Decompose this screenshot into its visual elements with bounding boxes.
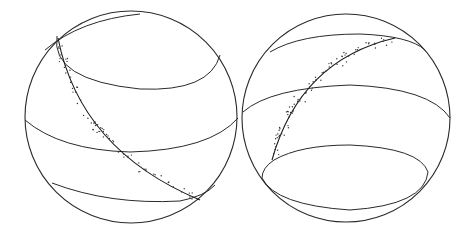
scatter-point (329, 66, 330, 67)
scatter-point (139, 171, 140, 172)
scatter-point (59, 58, 60, 59)
left-ring-upper (56, 36, 220, 89)
scatter-point (93, 122, 94, 123)
scatter-point (72, 88, 73, 89)
scatter-point (342, 65, 343, 66)
scatter-point (123, 153, 124, 154)
scatter-point (275, 138, 276, 139)
left-sphere (25, 11, 238, 223)
scatter-point (278, 130, 279, 131)
scatter-point (292, 106, 293, 107)
scatter-point (145, 169, 146, 170)
right-sphere (242, 14, 450, 222)
scatter-point (58, 48, 59, 49)
scatter-point (168, 181, 169, 182)
scatter-point (287, 125, 288, 126)
scatter-point (297, 101, 298, 102)
right-ring-upper (270, 34, 425, 52)
scatter-point (275, 146, 276, 147)
scatter-point (274, 143, 275, 144)
scatter-point (297, 99, 298, 100)
scatter-point (355, 49, 356, 50)
scatter-point (294, 104, 295, 105)
scatter-point (289, 106, 290, 107)
scatter-point (375, 47, 376, 48)
scatter-point (102, 128, 103, 129)
scatter-point (189, 196, 190, 197)
scatter-point (312, 87, 313, 88)
scatter-point (279, 135, 280, 136)
right-great-circle (272, 38, 395, 160)
scatter-point (87, 118, 88, 119)
scatter-point (288, 127, 289, 128)
scatter-point (192, 192, 193, 193)
scatter-point (331, 63, 332, 64)
scatter-point (386, 45, 387, 46)
scatter-point (348, 55, 349, 56)
left-ring-equator (25, 118, 238, 152)
scatter-point (184, 188, 185, 189)
left-scatter-points (58, 45, 193, 199)
scatter-point (97, 124, 98, 125)
scatter-point (290, 112, 291, 113)
scatter-point (277, 150, 278, 151)
scatter-point (315, 80, 316, 81)
scatter-point (103, 131, 104, 132)
scatter-point (354, 54, 355, 55)
scatter-point (383, 39, 384, 40)
scatter-point (374, 44, 375, 45)
scatter-point (274, 149, 275, 150)
scatter-point (127, 156, 128, 157)
scatter-point (358, 47, 359, 48)
scatter-point (92, 129, 93, 130)
scatter-point (278, 136, 279, 137)
scatter-point (60, 54, 61, 55)
scatter-point (305, 92, 306, 93)
scatter-point (368, 42, 369, 43)
scatter-point (70, 82, 71, 83)
scatter-point (293, 110, 294, 111)
scatter-point (311, 90, 312, 91)
scatter-point (103, 136, 104, 137)
scatter-point (189, 192, 190, 193)
scatter-point (288, 117, 289, 118)
scatter-point (336, 63, 337, 64)
scatter-point (107, 135, 108, 136)
spheres-diagram (0, 0, 471, 235)
scatter-point (65, 72, 66, 73)
scatter-point (391, 41, 392, 42)
scatter-point (77, 103, 78, 104)
scatter-point (161, 175, 162, 176)
scatter-point (345, 53, 346, 54)
scatter-point (113, 141, 114, 142)
scatter-point (336, 58, 337, 59)
scatter-point (131, 154, 132, 155)
right-scatter-points (273, 38, 393, 156)
scatter-point (96, 132, 97, 133)
scatter-point (357, 49, 358, 50)
scatter-point (61, 45, 62, 46)
scatter-point (80, 99, 81, 100)
scatter-point (279, 128, 280, 129)
scatter-point (75, 91, 76, 92)
scatter-point (65, 58, 66, 59)
scatter-point (312, 81, 313, 82)
scatter-point (64, 67, 65, 68)
scatter-point (325, 70, 326, 71)
scatter-point (275, 134, 276, 135)
scatter-point (69, 70, 70, 71)
scatter-point (328, 63, 329, 64)
scatter-point (154, 174, 155, 175)
scatter-point (287, 114, 288, 115)
scatter-point (277, 137, 278, 138)
scatter-point (281, 133, 282, 134)
scatter-point (292, 112, 293, 113)
scatter-point (323, 72, 324, 73)
scatter-point (70, 76, 71, 77)
scatter-point (342, 56, 343, 57)
right-ring-middle (243, 85, 450, 118)
scatter-point (293, 96, 294, 97)
scatter-point (67, 58, 68, 59)
scatter-point (100, 127, 101, 128)
scatter-point (94, 121, 95, 122)
